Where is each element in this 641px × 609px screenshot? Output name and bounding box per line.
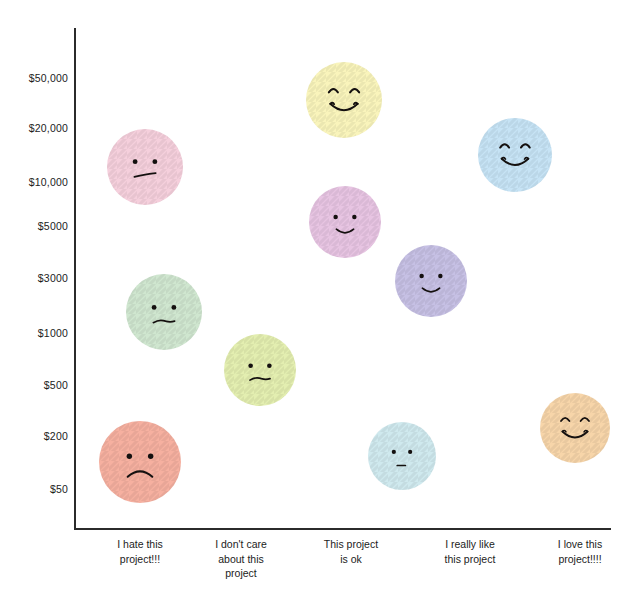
x-axis-tick-label: I really likethis project <box>410 537 530 566</box>
x-axis-line <box>74 528 611 530</box>
y-axis-tick-labels: $50,000$20,000$10,000$5000$3000$1000$500… <box>0 0 68 609</box>
data-point-face-happy <box>309 186 381 258</box>
y-axis-tick-label: $3000 <box>10 272 68 284</box>
y-axis-tick-label: $50 <box>10 483 68 495</box>
y-axis-tick-label: $200 <box>10 430 68 442</box>
scatter-chart: $50,000$20,000$10,000$5000$3000$1000$500… <box>0 0 641 609</box>
y-axis-tick-label: $5000 <box>10 220 68 232</box>
data-point-face-very-happy <box>478 118 552 192</box>
y-axis-tick-label: $1000 <box>10 327 68 339</box>
data-point-face-happy <box>395 245 467 317</box>
data-point-face-very-happy <box>306 62 382 138</box>
x-axis-tick-label: I love thisproject!!!! <box>520 537 640 566</box>
data-point-face-wry-frown <box>107 129 183 205</box>
x-axis-tick-label: I don't careabout thisproject <box>181 537 301 581</box>
y-axis-line <box>74 28 76 529</box>
data-point-face-frown <box>224 334 296 406</box>
y-axis-tick-label: $10,000 <box>10 176 68 188</box>
data-point-face-neutral <box>368 422 436 490</box>
y-axis-tick-label: $500 <box>10 379 68 391</box>
y-axis-tick-label: $20,000 <box>10 122 68 134</box>
data-point-face-frown <box>126 274 202 350</box>
y-axis-tick-label: $50,000 <box>10 72 68 84</box>
x-axis-tick-label: This projectis ok <box>291 537 411 566</box>
data-point-face-sad <box>99 421 181 503</box>
data-point-face-very-happy <box>540 393 610 463</box>
